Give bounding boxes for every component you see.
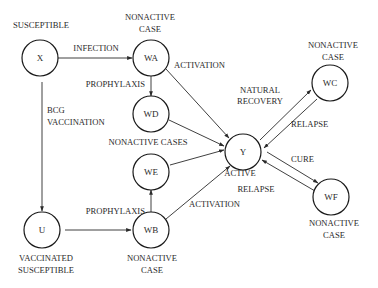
node-wc: WC [312,65,348,101]
node-u: U [24,212,60,248]
label-relapse-top: RELAPSE [291,119,328,129]
node-wf: WF [313,179,349,215]
node-wd: WD [133,96,169,132]
label-relapse-bottom: RELAPSE [237,184,274,194]
svg-text:WE: WE [144,167,158,177]
edge-we-y [170,150,224,165]
label-activation-top: ACTIVATION [174,60,226,70]
node-y: Y [225,134,261,170]
caption-wb-2: CASE [141,265,163,275]
caption-susceptible: SUSCEPTIBLE [13,20,69,30]
caption-wc-1: NONACTIVE [308,40,358,50]
label-bcg-1: BCG [47,105,65,115]
svg-text:Y: Y [240,147,247,157]
caption-wb-1: NONACTIVE [127,253,177,263]
node-wa: WA [133,40,169,76]
caption-nonactive-cases: NONACTIVE CASES [108,137,187,147]
svg-text:WD: WD [144,109,159,119]
tb-state-diagram: X WA WD WE WB U Y WC WF SUSCEPTIBLE NONA… [0,0,378,288]
label-natural-2: RECOVERY [237,96,283,106]
edge-activation-wa-y [166,69,229,138]
label-natural-1: NATURAL [240,85,280,95]
node-we: WE [133,154,169,190]
caption-u-2: SUSCEPTIBLE [18,265,74,275]
node-x: X [22,40,58,76]
caption-active: ACTIVE [224,168,256,178]
svg-text:WB: WB [144,225,159,235]
caption-wf-1: NONACTIVE [309,218,359,228]
caption-wc-2: CASE [322,52,344,62]
label-prophylaxis-bottom: PROPHYLAXIS [86,206,145,216]
svg-text:U: U [39,225,46,235]
label-prophylaxis-top: PROPHYLAXIS [86,79,145,89]
label-bcg-2: VACCINATION [47,117,105,127]
caption-u-1: VACCINATED [19,253,73,263]
label-infection: INFECTION [73,43,119,53]
svg-text:WC: WC [323,78,338,88]
caption-wf-2: CASE [323,230,345,240]
edge-activation-wb-y [166,166,230,219]
caption-wa-1: NONACTIVE [125,12,175,22]
label-activation-bottom: ACTIVATION [189,199,241,209]
svg-text:WA: WA [144,53,158,63]
label-cure: CURE [291,154,314,164]
caption-wa-2: CASE [139,24,161,34]
svg-text:WF: WF [324,192,338,202]
svg-text:X: X [37,53,44,63]
node-wb: WB [133,212,169,248]
